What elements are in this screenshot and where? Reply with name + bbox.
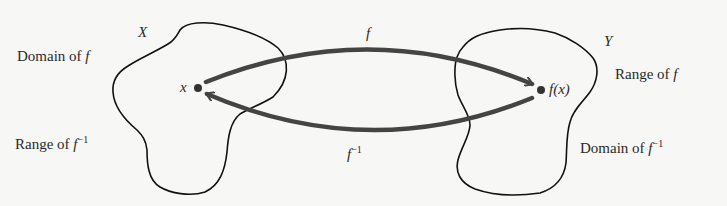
set-y-outline [455,29,597,195]
arrow-f-label: f [366,25,372,41]
function-inverse-diagram: X Y Domain of f Range of f−1 Range of f … [0,0,727,206]
set-x-name: X [137,24,148,40]
point-fx [537,86,545,94]
range-of-f-label: Range of f [615,66,679,82]
arrow-f [206,49,532,84]
set-x-outline [113,23,287,195]
range-of-f-inverse-label: Range of f−1 [15,134,88,152]
point-x-label: x [179,79,187,95]
arrow-f-inverse [207,94,532,130]
domain-of-f-inverse-label: Domain of f−1 [580,138,663,156]
point-fx-label: f(x) [549,81,570,98]
set-y-name: Y [604,33,614,49]
point-x [194,84,202,92]
arrow-f-inverse-label: f−1 [347,144,362,162]
domain-of-f-label: Domain of f [17,48,91,64]
